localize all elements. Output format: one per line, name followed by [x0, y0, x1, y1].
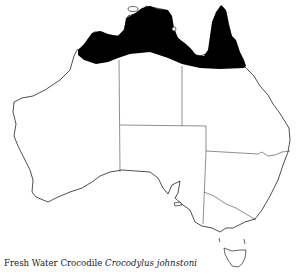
kangaroo-island	[174, 202, 182, 206]
king-island	[219, 238, 220, 242]
groote-eylandt	[172, 27, 176, 31]
common-name: Fresh Water Crocodile	[4, 258, 102, 268]
tasmania	[224, 248, 246, 267]
australia-distribution-map	[0, 0, 300, 277]
species-caption: Fresh Water Crocodile Crocodylus johnsto…	[4, 258, 197, 268]
flinders-island	[244, 239, 245, 244]
scientific-name: Crocodylus johnstoni	[105, 258, 197, 268]
melville-island	[128, 7, 138, 12]
